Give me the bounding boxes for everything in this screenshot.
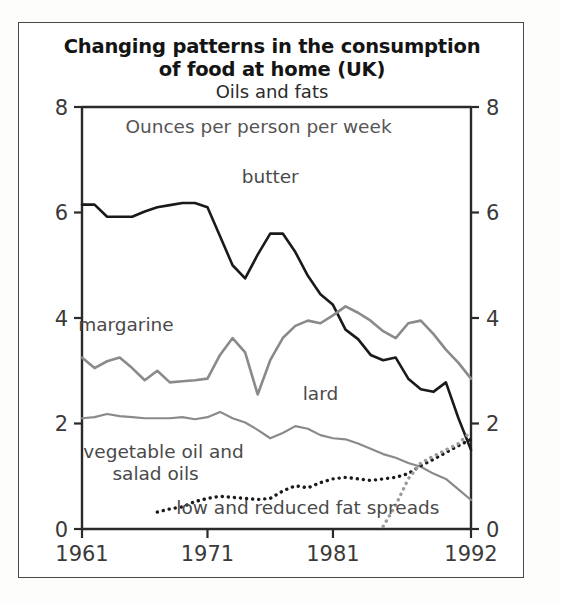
chart-svg: 00224466881961197119811992Ounces per per… [19,23,525,579]
series-label-low-and-reduced-fat-spreads: low and reduced fat spreads [176,497,439,518]
y-tick-label-right: 6 [486,201,499,225]
x-tick-label: 1971 [181,542,234,566]
plot-area: 00224466881961197119811992Ounces per per… [19,23,525,579]
series-label-margarine: margarine [78,314,174,335]
y-tick-label-right: 2 [486,412,499,436]
y-tick-label-right: 0 [486,518,499,542]
series-label-butter: butter [242,166,299,187]
chart-figure: Changing patterns in the consumption of … [18,22,524,578]
series-label-lard: lard [303,383,339,404]
x-tick: 1981 [306,529,359,566]
y-tick-label-right: 4 [486,307,499,331]
x-tick-label: 1961 [55,542,108,566]
units-note: Ounces per person per week [125,116,391,137]
x-tick: 1971 [181,529,234,566]
y-tick: 66 [55,201,500,225]
y-tick-label-left: 8 [55,96,68,120]
y-tick-label-left: 0 [55,518,68,542]
series-label-vegetable-oil-and-salad-oils-2: salad oils [112,463,198,484]
y-tick-label-left: 6 [55,201,68,225]
series-label-vegetable-oil-and-salad-oils: vegetable oil and [83,441,243,462]
x-tick-label: 1981 [306,542,359,566]
x-tick-label: 1992 [444,542,497,566]
y-tick-label-left: 2 [55,412,68,436]
y-tick-label-left: 4 [55,307,68,331]
y-tick-label-right: 8 [486,96,499,120]
